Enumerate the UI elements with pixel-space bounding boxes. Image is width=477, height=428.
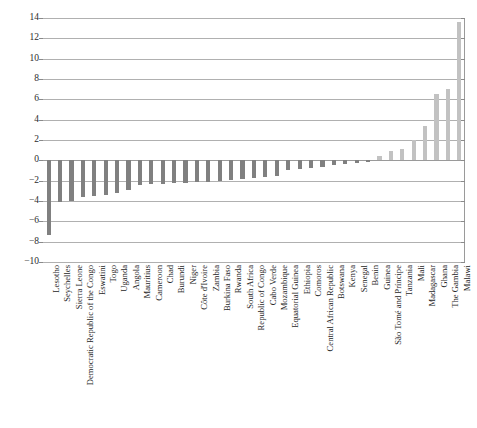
x-axis-category-label: Burkina Faso [223,265,232,311]
right-axis-tickmark [461,140,465,141]
x-axis-category-label: Guinea [383,265,392,290]
chart-figure: −10−8−6−4−202468101214 LesothoSeychelles… [0,0,477,428]
figure-caption [100,420,400,428]
x-axis-category-label: Botswana [337,265,346,299]
x-axis-category-label: Rwanda [234,265,243,293]
x-axis-category-label: Seychelles [63,265,72,302]
x-axis-category-label: Madagascar [428,265,437,307]
x-axis-category-label: Democratic Republic of the Congo [86,265,95,385]
x-axis-category-label: Malawi [463,265,472,291]
gridline [43,262,465,263]
x-axis-category-label: Equatorial Guinea [291,265,300,328]
right-axis-tickmark [461,38,465,39]
x-axis-category-label: Burundi [177,265,186,293]
x-axis-category-label: Niger [189,265,198,285]
right-axis-tickmark [461,59,465,60]
x-axis-category-label: Ethiopia [303,265,312,294]
x-axis-category-label: Ghana [440,265,449,287]
x-axis-category-labels: LesothoSeychellesSierra LeoneDemocratic … [43,265,465,385]
x-axis-category-label: Republic of Congo [257,265,266,330]
x-axis-category-label: Côte d'Ivoire [200,265,209,310]
x-axis-category-label: Kenya [348,265,357,287]
x-axis-category-label: Senegal [360,265,369,292]
x-axis-category-label: The Gambia [451,265,460,308]
x-axis-category-label: Comoros [314,265,323,297]
right-axis-tickmark [461,221,465,222]
x-axis-category-label: Eswatini [98,265,107,295]
right-axis-tickmark [461,262,465,263]
x-axis-category-label: Central African Republic [326,265,335,351]
x-axis-category-label: Zambia [212,265,221,291]
right-axis-tickmark [461,79,465,80]
x-axis-category-label: Togo [109,265,118,283]
x-axis-category-label: Cameroon [155,265,164,301]
x-axis-category-label: Mauritius [143,265,152,298]
x-axis-category-label: Tanzania [405,265,414,296]
right-axis-tickmark [461,201,465,202]
x-axis-category-label: Uganda [120,265,129,292]
x-axis-category-label: Benin [371,265,380,286]
right-axis-tickmark [461,181,465,182]
x-axis-category-label: Chad [166,265,175,283]
x-axis-category-label: São Tomé and Príncipe [394,265,403,345]
right-axis-tickmark [461,18,465,19]
right-axis-tickmarks [0,18,477,262]
x-axis-category-label: Lesotho [52,265,61,293]
right-axis-tickmark [461,242,465,243]
x-axis-category-label: Angola [132,265,141,290]
x-axis-category-label: Sierra Leone [75,265,84,309]
right-axis-tickmark [461,120,465,121]
x-axis-category-label: Cabo Verde [269,265,278,305]
x-axis-category-label: South Africa [246,265,255,309]
x-axis-category-label: Mozambique [280,265,289,310]
right-axis-tickmark [461,99,465,100]
right-axis-tickmark [461,160,465,161]
x-axis-category-label: Mali [417,265,426,281]
